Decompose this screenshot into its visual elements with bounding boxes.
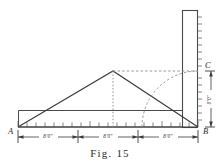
dimension-label-span-2: 8'0"	[103, 133, 113, 139]
figure-drawing: 8'0" 8'0" 8'0" 8'0" A B C	[0, 0, 220, 168]
base-slab	[19, 111, 183, 128]
swing-arc	[142, 71, 198, 127]
point-label-a: A	[7, 126, 14, 136]
dimension-label-span-3: 8'0"	[163, 133, 173, 139]
dimension-label-span-1: 8'0"	[43, 133, 53, 139]
point-label-c: C	[205, 60, 211, 70]
vertical-column	[183, 11, 198, 128]
figure-caption: Fig. 15	[0, 147, 220, 159]
dimension-label-height-right: 8'0"	[206, 94, 212, 104]
figure-15-container: 8'0" 8'0" 8'0" 8'0" A B C Fig. 15	[0, 0, 220, 168]
baseline-tick-scale	[18, 121, 198, 127]
horizontal-dimension-group: 8'0" 8'0" 8'0"	[18, 130, 198, 143]
vertical-dimension-group: 8'0"	[205, 71, 216, 127]
column-tick-scale	[198, 17, 203, 120]
point-label-b: B	[203, 126, 208, 136]
triangle-frame	[18, 71, 198, 127]
